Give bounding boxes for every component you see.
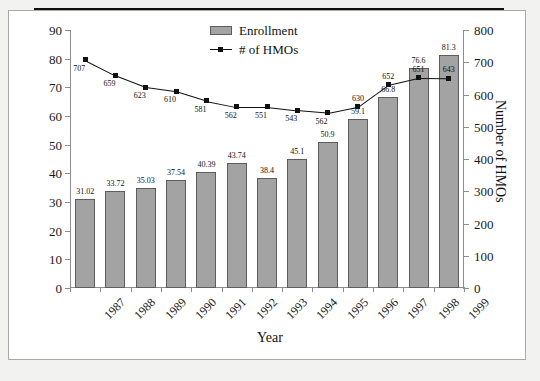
- x-tick: [434, 287, 435, 292]
- y-tick-label: 10: [16, 253, 62, 266]
- hmo-line-segment: [267, 107, 297, 112]
- y2-tick: [463, 62, 469, 63]
- bar-1993: [257, 178, 277, 288]
- y2-tick-label: 400: [474, 153, 520, 166]
- bar-1990: [166, 180, 186, 288]
- chart-page: Enrollment (in millions) Number of HMOs …: [0, 0, 540, 381]
- hmo-value-label: 652: [373, 73, 403, 81]
- y-tick: [65, 145, 71, 146]
- y-tick-label: 30: [16, 196, 62, 209]
- hmo-value-label: 562: [216, 112, 246, 120]
- bar-1998: [409, 68, 429, 288]
- y-tick-label: 90: [16, 24, 62, 37]
- hmo-value-label: 643: [434, 66, 464, 74]
- x-tick: [131, 287, 132, 292]
- bar-value-label: 31.02: [65, 188, 105, 196]
- hmo-marker-1995: [325, 110, 330, 115]
- bar-1988: [105, 191, 125, 288]
- bar-1989: [136, 188, 156, 288]
- y2-tick: [463, 95, 469, 96]
- hmo-value-label: 581: [185, 106, 215, 114]
- hmo-marker-1999: [446, 76, 451, 81]
- x-tick: [252, 287, 253, 292]
- y-tick-label: 50: [16, 139, 62, 152]
- hmo-marker-1988: [113, 73, 118, 78]
- x-tick: [403, 287, 404, 292]
- hmo-line-segment: [237, 107, 267, 108]
- hmo-marker-1993: [265, 104, 270, 109]
- x-tick: [343, 287, 344, 292]
- hmo-marker-1996: [355, 104, 360, 109]
- y2-tick: [463, 191, 469, 192]
- bar-value-label: 37.54: [156, 169, 196, 177]
- bar-1991: [196, 172, 216, 288]
- x-tick: [464, 287, 465, 292]
- hmo-value-label: 623: [125, 92, 155, 100]
- hmo-value-label: 610: [155, 96, 185, 104]
- y-tick-label: 80: [16, 53, 62, 66]
- x-tick: [161, 287, 162, 292]
- hmo-marker-1991: [204, 98, 209, 103]
- bar-value-label: 38.4: [247, 167, 287, 175]
- x-tick: [282, 287, 283, 292]
- hmo-marker-1992: [234, 104, 239, 109]
- bar-value-label: 50.9: [308, 131, 348, 139]
- hmo-value-label: 543: [276, 115, 306, 123]
- x-tick: [373, 287, 374, 292]
- hmo-value-label: 651: [404, 66, 434, 74]
- y2-tick-label: 0: [474, 282, 520, 295]
- hmo-value-label: 551: [246, 112, 276, 120]
- plot-area: 0102030405060708090010020030040050060070…: [70, 30, 464, 288]
- bar-value-label: 43.74: [217, 152, 257, 160]
- bar-1999: [439, 55, 459, 288]
- y-tick: [65, 259, 71, 260]
- bar-value-label: 35.03: [126, 177, 166, 185]
- y-tick: [65, 59, 71, 60]
- bar-1995: [318, 142, 338, 288]
- y-tick: [65, 30, 71, 31]
- y-tick-label: 70: [16, 81, 62, 94]
- hmo-marker-1990: [174, 89, 179, 94]
- bar-1987: [75, 199, 95, 288]
- y-tick: [65, 173, 71, 174]
- y2-tick-label: 500: [474, 121, 520, 134]
- hmo-marker-1987: [83, 57, 88, 62]
- hmo-value-label: 707: [64, 65, 94, 73]
- hmo-line-segment: [297, 110, 327, 114]
- y-tick-label: 0: [16, 282, 62, 295]
- y-tick: [65, 87, 71, 88]
- y-tick: [65, 202, 71, 203]
- y2-tick-label: 200: [474, 218, 520, 231]
- y2-tick-label: 600: [474, 89, 520, 102]
- x-tick: [191, 287, 192, 292]
- bar-value-label: 45.1: [277, 148, 317, 156]
- bar-value-label: 40.39: [186, 161, 226, 169]
- hmo-value-label: 630: [343, 95, 373, 103]
- x-axis-title: Year: [0, 330, 540, 346]
- bar-value-label: 81.3: [429, 44, 469, 52]
- hmo-value-label: 562: [307, 118, 337, 126]
- y2-tick: [463, 30, 469, 31]
- y2-tick: [463, 127, 469, 128]
- y2-tick-label: 300: [474, 185, 520, 198]
- y2-tick-label: 800: [474, 24, 520, 37]
- hmo-marker-1998: [416, 75, 421, 80]
- x-tick: [222, 287, 223, 292]
- y-tick: [65, 231, 71, 232]
- y2-tick-label: 700: [474, 56, 520, 69]
- y2-tick: [463, 224, 469, 225]
- hmo-marker-1997: [386, 82, 391, 87]
- y2-tick: [463, 256, 469, 257]
- hmo-marker-1989: [143, 85, 148, 90]
- bar-1996: [348, 119, 368, 288]
- y-tick: [65, 116, 71, 117]
- x-tick: [312, 287, 313, 292]
- x-tick: [100, 287, 101, 292]
- bar-1992: [227, 163, 247, 288]
- y-tick-label: 20: [16, 225, 62, 238]
- bar-1997: [378, 97, 398, 288]
- y2-tick: [463, 159, 469, 160]
- hmo-line-segment: [419, 78, 449, 79]
- y-tick-label: 60: [16, 110, 62, 123]
- bar-1994: [287, 159, 307, 288]
